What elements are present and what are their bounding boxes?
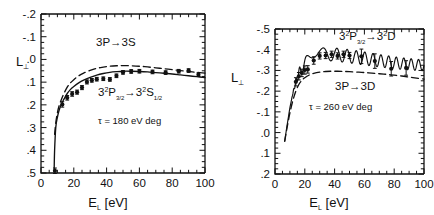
plot-right-text-layer: L⊥ EL [eV] 32P3/2→32D 3P→3D τ = 260 eV d…: [217, 0, 434, 215]
annotation-tau-left: τ = 180 eV deg: [98, 115, 161, 126]
annotation-fine-structure-right: 32P3/2→32D: [339, 30, 395, 45]
y-axis-label-left: L⊥: [16, 54, 29, 70]
chart-panel-left: 020406080100.5.4.3.2.1.0-.1-.2 L⊥ EL [eV…: [0, 0, 217, 215]
y-axis-label-right: L⊥: [231, 70, 244, 86]
annotation-fine-structure-left: 32P3/2→32S1/2: [98, 86, 163, 101]
x-axis-label-right: EL [eV]: [309, 195, 348, 211]
x-axis-label-left: EL [eV]: [88, 195, 127, 211]
annotation-3P-3S: 3P→3S: [96, 36, 136, 48]
plot-left-text-layer: L⊥ EL [eV] 3P→3S 32P3/2→32S1/2 τ = 180 e…: [0, 0, 217, 215]
chart-panel-right: 020406080100-.5-.4-.3-.2-.1.0.1.2 L⊥ EL …: [217, 0, 434, 215]
annotation-3P-3D: 3P→3D: [335, 80, 375, 92]
annotation-tau-right: τ = 260 eV deg: [309, 101, 372, 112]
figure-root: 020406080100.5.4.3.2.1.0-.1-.2 L⊥ EL [eV…: [0, 0, 434, 215]
